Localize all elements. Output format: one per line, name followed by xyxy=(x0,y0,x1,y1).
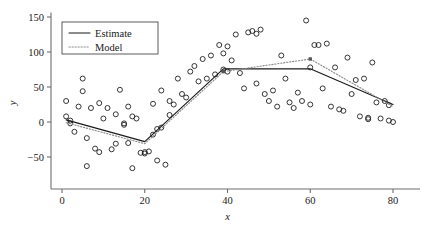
scatter-point xyxy=(113,112,118,117)
y-axis-ticks: −50050100150 xyxy=(28,12,51,163)
scatter-point xyxy=(93,146,98,151)
scatter-point xyxy=(258,27,263,32)
scatter-point xyxy=(97,150,102,155)
y-axis-title: y xyxy=(7,100,18,106)
scatter-point xyxy=(233,32,238,37)
model-knot-marker xyxy=(222,70,225,73)
scatter-point xyxy=(208,53,213,58)
scatter-point xyxy=(254,31,259,36)
scatter-point xyxy=(328,104,333,109)
scatter-point xyxy=(295,90,300,95)
scatter-point xyxy=(159,88,164,93)
scatter-point xyxy=(362,76,367,81)
scatter-point xyxy=(72,129,77,134)
scatter-point xyxy=(279,53,284,58)
series-line-estimate xyxy=(66,69,393,142)
scatter-point xyxy=(333,65,338,70)
scatter-point xyxy=(324,41,329,46)
x-tick-label: 60 xyxy=(305,195,316,206)
x-tick-label: 80 xyxy=(388,195,399,206)
scatter-point xyxy=(88,106,93,111)
y-tick-label: 150 xyxy=(28,12,44,23)
scatter-point xyxy=(320,86,325,91)
scatter-point xyxy=(237,71,242,76)
model-knot-marker xyxy=(309,57,312,60)
scatter-point xyxy=(374,100,379,105)
scatter-point xyxy=(291,106,296,111)
scatter-point xyxy=(370,60,375,65)
scatter-point xyxy=(204,76,209,81)
legend-label-estimate: Estimate xyxy=(95,28,132,39)
scatter-point xyxy=(113,141,118,146)
scatter-point xyxy=(283,76,288,81)
scatter-point xyxy=(105,106,110,111)
y-tick-label: 0 xyxy=(39,117,44,128)
scatter-point xyxy=(155,158,160,163)
scatter-point xyxy=(163,162,168,167)
scatter-point xyxy=(80,76,85,81)
scatter-point xyxy=(225,44,230,49)
scatter-point xyxy=(184,95,189,100)
scatter-point xyxy=(308,102,313,107)
scatter-point xyxy=(378,116,383,121)
scatter-point xyxy=(126,104,131,109)
scatter-point xyxy=(171,102,176,107)
scatter-point xyxy=(262,92,267,97)
scatter-point xyxy=(134,116,139,121)
scatter-chart-figure: −50050100150020406080xyEstimateModel xyxy=(0,0,425,226)
scatter-point xyxy=(217,43,222,48)
scatter-point xyxy=(254,81,259,86)
x-tick-label: 0 xyxy=(59,195,64,206)
scatter-point xyxy=(117,87,122,92)
scatter-point xyxy=(271,88,276,93)
scatter-point xyxy=(76,104,81,109)
scatter-point xyxy=(84,164,89,169)
scatter-point xyxy=(242,86,247,91)
scatter-point xyxy=(353,78,358,83)
scatter-point xyxy=(287,100,292,105)
scatter-point xyxy=(304,18,309,23)
scatter-point xyxy=(221,51,226,56)
scatter-point xyxy=(151,101,156,106)
y-tick-label: 50 xyxy=(34,82,45,93)
scatter-point xyxy=(80,89,85,94)
scatter-point xyxy=(275,104,280,109)
scatter-point xyxy=(126,141,131,146)
scatter-point xyxy=(179,92,184,97)
chart-canvas: −50050100150020406080xyEstimateModel xyxy=(0,0,425,226)
legend-label-model: Model xyxy=(95,42,122,53)
x-axis-ticks: 020406080 xyxy=(59,189,398,206)
scatter-point xyxy=(345,55,350,60)
y-tick-label: 100 xyxy=(28,47,44,58)
scatter-point xyxy=(349,92,354,97)
scatter-point xyxy=(200,57,205,62)
x-tick-label: 20 xyxy=(140,195,151,206)
x-tick-label: 40 xyxy=(222,195,233,206)
scatter-point xyxy=(84,136,89,141)
scatter-point xyxy=(130,166,135,171)
scatter-point xyxy=(109,147,114,152)
scatter-point xyxy=(192,64,197,69)
scatter-point xyxy=(64,99,69,104)
scatter-point xyxy=(229,58,234,63)
scatter-point xyxy=(101,116,106,121)
x-axis-title: x xyxy=(224,211,230,222)
legend: EstimateModel xyxy=(62,22,158,54)
scatter-point xyxy=(188,69,193,74)
scatter-point xyxy=(196,79,201,84)
scatter-point xyxy=(167,99,172,104)
scatter-point xyxy=(357,114,362,119)
scatter-point xyxy=(266,99,271,104)
scatter-point xyxy=(299,99,304,104)
y-tick-label: −50 xyxy=(28,152,44,163)
scatter-point xyxy=(97,101,102,106)
scatter-point xyxy=(175,76,180,81)
scatter-point xyxy=(64,114,69,119)
